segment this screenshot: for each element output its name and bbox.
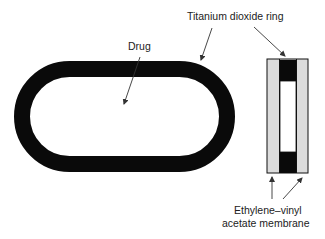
label-titanium-dioxide-ring: Titanium dioxide ring [187,10,284,22]
label-membrane-line1: Ethylene–vinyl [234,204,302,216]
titanium-dioxide-ring-topview [22,69,227,164]
cross-section-ring-top [280,60,296,81]
arrow-ring-topview [201,28,212,60]
cross-section-ring-bottom [280,152,296,173]
label-drug: Drug [128,40,151,52]
arrow-ring-crosssection [254,27,285,56]
arrow-membrane-right [283,178,302,199]
cross-section-drug-core [280,81,296,152]
ring-cross-section [267,59,308,173]
label-membrane-line2: acetate membrane [222,217,310,229]
